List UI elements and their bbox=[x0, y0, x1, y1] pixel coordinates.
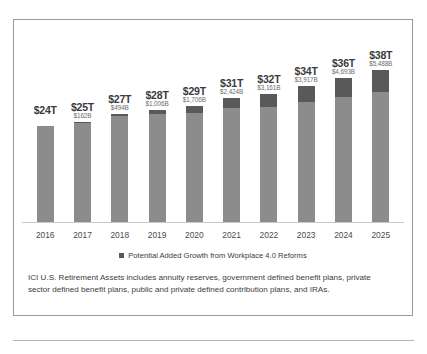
bar-added-label: $1,006B bbox=[140, 101, 174, 108]
bar-group: $34T$3,917B bbox=[289, 26, 323, 222]
bar-stack bbox=[298, 86, 315, 222]
bar-group: $24T bbox=[28, 26, 62, 222]
bar-group: $31T$2,424B bbox=[214, 26, 248, 222]
x-axis-tick-labels: 2016201720182019202020212022202320242025 bbox=[22, 230, 404, 240]
bar-total-label: $38T bbox=[364, 50, 398, 61]
x-tick-2020: 2020 bbox=[177, 230, 211, 240]
bar-segment-base bbox=[111, 116, 128, 222]
bar-total-label: $28T bbox=[140, 90, 174, 101]
x-axis-line bbox=[22, 222, 404, 223]
bar-labels: $34T$3,917B bbox=[289, 66, 323, 85]
bar-segment-base bbox=[74, 123, 91, 222]
bar-stack bbox=[372, 70, 389, 222]
bar-segment-added bbox=[186, 106, 203, 113]
bar-stack bbox=[149, 110, 166, 222]
bar-total-label: $25T bbox=[65, 102, 99, 113]
x-tick-2016: 2016 bbox=[28, 230, 62, 240]
bar-stack bbox=[37, 126, 54, 222]
bar-labels: $38T$5,488B bbox=[364, 50, 398, 69]
bar-total-label: $27T bbox=[103, 94, 137, 105]
bar-added-label: $162B bbox=[65, 113, 99, 120]
bar-added-label: $5,488B bbox=[364, 61, 398, 68]
x-tick-2023: 2023 bbox=[289, 230, 323, 240]
chart-footnote: ICI U.S. Retirement Assets includes annu… bbox=[28, 272, 392, 295]
bar-segment-base bbox=[298, 102, 315, 222]
x-tick-2019: 2019 bbox=[140, 230, 174, 240]
plot-area: $24T$25T$162B$27T$494B$28T$1,006B$29T$1,… bbox=[22, 26, 404, 244]
bar-group: $25T$162B bbox=[65, 26, 99, 222]
bar-segment-base bbox=[37, 126, 54, 222]
bar-group: $29T$1,706B bbox=[177, 26, 211, 222]
bar-stack bbox=[74, 122, 91, 222]
chart-card: $24T$25T$162B$27T$494B$28T$1,006B$29T$1,… bbox=[13, 19, 413, 316]
bar-added-label: $2,424B bbox=[214, 89, 248, 96]
bar-labels: $25T$162B bbox=[65, 102, 99, 121]
bar-segment-base bbox=[335, 97, 352, 222]
bar-total-label: $34T bbox=[289, 66, 323, 77]
bar-labels: $36T$4,693B bbox=[326, 58, 360, 77]
bar-segment-base bbox=[149, 114, 166, 222]
page-divider bbox=[13, 340, 414, 341]
bar-group: $28T$1,006B bbox=[140, 26, 174, 222]
bar-stack bbox=[335, 78, 352, 222]
bar-segment-base bbox=[260, 107, 277, 222]
bar-group: $38T$5,488B bbox=[364, 26, 398, 222]
bar-labels: $27T$494B bbox=[103, 94, 137, 113]
bar-segment-added bbox=[298, 86, 315, 102]
bars-container: $24T$25T$162B$27T$494B$28T$1,006B$29T$1,… bbox=[22, 26, 404, 222]
bar-labels: $24T bbox=[28, 105, 62, 124]
bar-segment-added bbox=[223, 98, 240, 108]
bar-group: $36T$4,693B bbox=[326, 26, 360, 222]
bar-total-label: $29T bbox=[177, 86, 211, 97]
bar-added-label: $1,706B bbox=[177, 97, 211, 104]
bar-labels: $29T$1,706B bbox=[177, 86, 211, 105]
x-tick-2022: 2022 bbox=[252, 230, 286, 240]
bar-total-label: $31T bbox=[214, 78, 248, 89]
bar-group: $32T$3,161B bbox=[252, 26, 286, 222]
bar-labels: $31T$2,424B bbox=[214, 78, 248, 97]
x-tick-2025: 2025 bbox=[364, 230, 398, 240]
bar-labels: $28T$1,006B bbox=[140, 90, 174, 109]
bar-added-label: $4,693B bbox=[326, 69, 360, 76]
legend-item-label: Potential Added Growth from Workplace 4.… bbox=[128, 251, 306, 260]
bar-added-label: $3,161B bbox=[252, 85, 286, 92]
bar-stack bbox=[260, 94, 277, 222]
bar-segment-base bbox=[186, 113, 203, 222]
x-tick-2021: 2021 bbox=[214, 230, 248, 240]
bar-added-label: $494B bbox=[103, 105, 137, 112]
bar-stack bbox=[223, 98, 240, 222]
bar-stack bbox=[186, 106, 203, 222]
bar-stack bbox=[111, 114, 128, 222]
legend-swatch-icon bbox=[119, 253, 124, 258]
chart-legend: Potential Added Growth from Workplace 4.… bbox=[14, 251, 412, 260]
bar-segment-base bbox=[372, 92, 389, 222]
bar-segment-added bbox=[260, 94, 277, 107]
x-tick-2018: 2018 bbox=[103, 230, 137, 240]
bar-total-label: $32T bbox=[252, 74, 286, 85]
x-tick-2017: 2017 bbox=[65, 230, 99, 240]
bar-group: $27T$494B bbox=[103, 26, 137, 222]
bar-segment-added bbox=[335, 78, 352, 97]
bar-total-label: $36T bbox=[326, 58, 360, 69]
bar-total-label: $24T bbox=[28, 105, 62, 116]
bar-segment-added bbox=[372, 70, 389, 92]
bar-segment-base bbox=[223, 108, 240, 222]
bar-labels: $32T$3,161B bbox=[252, 74, 286, 93]
x-tick-2024: 2024 bbox=[326, 230, 360, 240]
bar-added-label: $3,917B bbox=[289, 77, 323, 84]
bar-added-label bbox=[28, 117, 62, 124]
